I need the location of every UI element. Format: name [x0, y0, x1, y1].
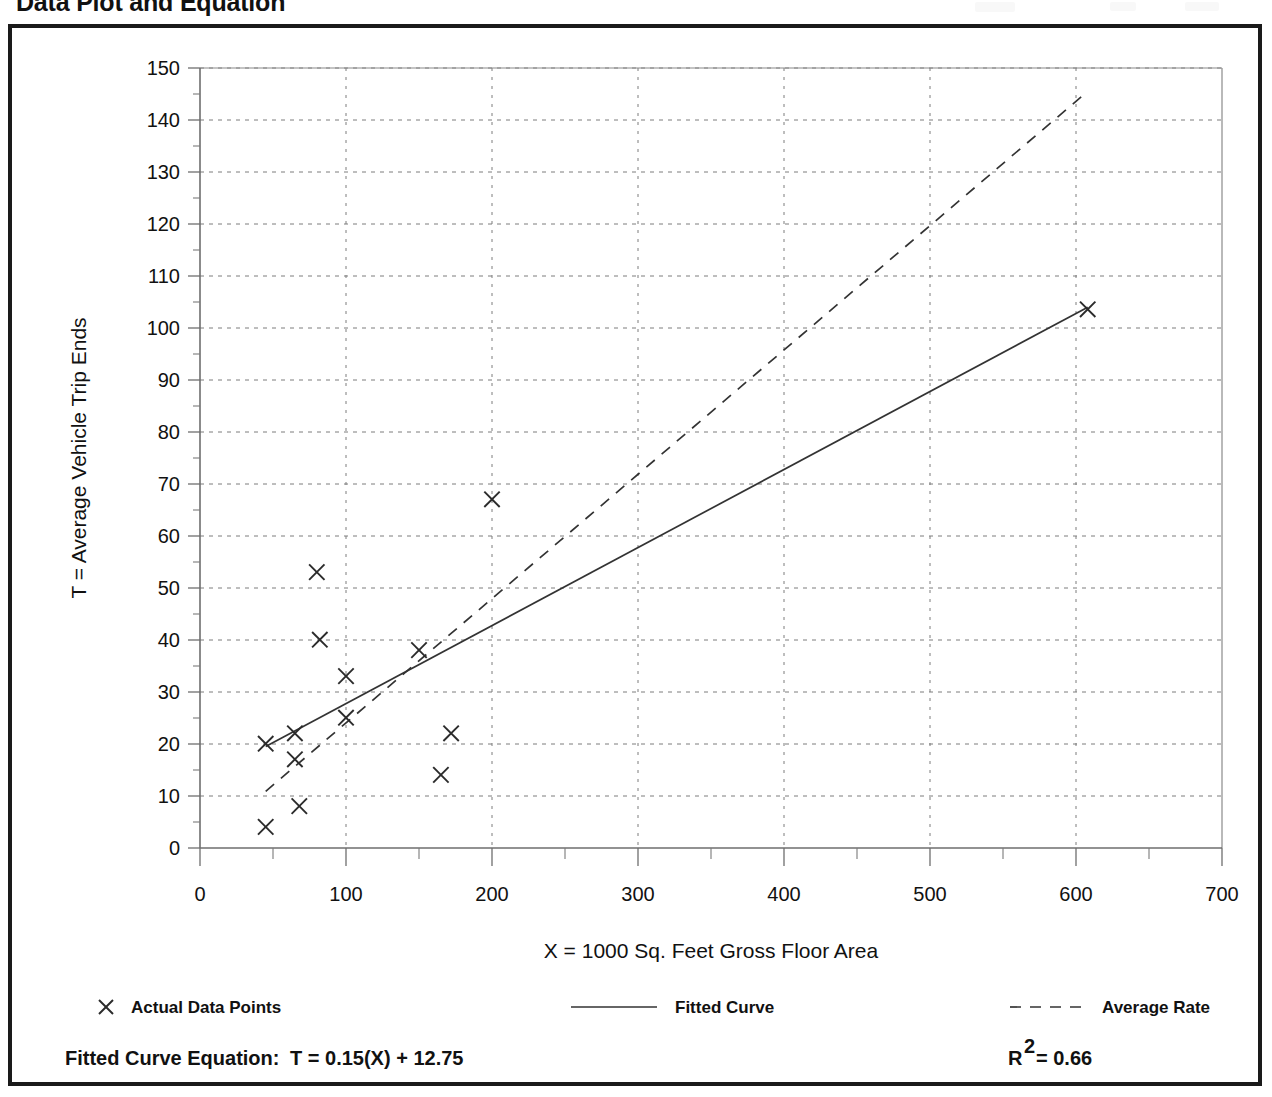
x-tick-label: 500	[913, 883, 946, 905]
data-point-marker	[292, 798, 307, 813]
y-tick-label: 50	[158, 577, 180, 599]
x-tick-label: 700	[1205, 883, 1238, 905]
data-point-marker	[287, 752, 302, 767]
x-marker-icon	[99, 1000, 113, 1014]
x-axis-title: X = 1000 Sq. Feet Gross Floor Area	[544, 939, 879, 962]
x-tick-label: 0	[194, 883, 205, 905]
y-tick-label: 40	[158, 629, 180, 651]
legend-label: Average Rate	[1102, 998, 1210, 1017]
chart-canvas: 150 140 130 120 110 100 90 80 70 60 50 4…	[0, 0, 1272, 1097]
x-axis	[200, 848, 1222, 866]
y-tick-label: 110	[148, 265, 180, 287]
y-tick-label: 10	[158, 785, 180, 807]
legend-label: Actual Data Points	[131, 998, 281, 1017]
y-tick-label: 120	[147, 213, 180, 235]
equation-label: Fitted Curve Equation:	[65, 1047, 279, 1069]
y-tick-label: 30	[158, 681, 180, 703]
y-axis	[188, 68, 200, 848]
series-fitted-curve	[266, 307, 1088, 746]
legend-item-actual-data-points[interactable]: Actual Data Points	[99, 998, 281, 1017]
equation-value: T = 0.15(X) + 12.75	[290, 1047, 463, 1069]
series-actual-data-points	[258, 302, 1095, 835]
legend-item-fitted-curve[interactable]: Fitted Curve	[571, 998, 774, 1017]
y-tick-label: 60	[158, 525, 180, 547]
x-tick-label: 200	[475, 883, 508, 905]
series-average-rate	[266, 91, 1088, 791]
legend-item-average-rate[interactable]: Average Rate	[1010, 998, 1210, 1017]
y-tick-label: 20	[158, 733, 180, 755]
data-point-marker	[258, 819, 273, 834]
data-point-marker	[309, 564, 324, 579]
horizontal-gridlines	[200, 68, 1222, 796]
x-tick-label: 300	[621, 883, 654, 905]
r-squared-value: = 0.66	[1036, 1047, 1092, 1069]
data-point-marker	[443, 726, 458, 741]
y-tick-label: 150	[147, 57, 180, 79]
y-tick-label: 90	[158, 369, 180, 391]
y-tick-label: 70	[158, 473, 180, 495]
data-point-marker	[312, 632, 327, 647]
data-point-marker	[411, 642, 426, 657]
plot-border	[200, 68, 1222, 848]
r-squared-label: R	[1008, 1047, 1023, 1069]
equation-row: Fitted Curve Equation: T = 0.15(X) + 12.…	[65, 1035, 1092, 1069]
y-tick-label: 80	[158, 421, 180, 443]
legend-label: Fitted Curve	[675, 998, 774, 1017]
x-tick-label: 400	[767, 883, 800, 905]
x-tick-label: 600	[1059, 883, 1092, 905]
vertical-gridlines	[346, 68, 1076, 848]
y-tick-label: 130	[147, 161, 180, 183]
y-tick-label: 0	[169, 837, 180, 859]
r-squared-exponent: 2	[1024, 1035, 1035, 1057]
chart-legend: Actual Data Points Fitted Curve Average …	[99, 998, 1210, 1017]
y-axis-title: T = Average Vehicle Trip Ends	[67, 317, 90, 598]
x-tick-labels: 0 100 200 300 400 500 600 700	[194, 883, 1238, 905]
y-tick-label: 140	[147, 109, 180, 131]
x-tick-label: 100	[329, 883, 362, 905]
data-point-marker	[433, 767, 448, 782]
y-tick-labels: 150 140 130 120 110 100 90 80 70 60 50 4…	[147, 57, 180, 859]
y-tick-label: 100	[147, 317, 180, 339]
